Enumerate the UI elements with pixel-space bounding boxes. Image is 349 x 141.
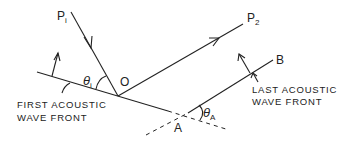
theta-i-arc xyxy=(96,76,106,89)
label-o: O xyxy=(120,75,129,89)
label-p1: Pi xyxy=(57,9,67,25)
caption-last-line2: WAVE FRONT xyxy=(252,96,322,107)
acoustic-wavefront-diagram: Pi P2 O B A θi θA FIRST ACOUSTIC WAVE FR… xyxy=(0,0,349,141)
last-front-normal xyxy=(239,54,250,73)
caption-first-line2: WAVE FRONT xyxy=(17,112,87,123)
caption-first-line1: FIRST ACOUSTIC xyxy=(17,99,107,110)
first-front-normal xyxy=(52,53,58,76)
first-caption-leader xyxy=(62,83,70,93)
reflected-ray xyxy=(118,24,243,96)
label-b: B xyxy=(276,53,284,67)
label-a: A xyxy=(174,121,182,135)
incident-ray xyxy=(71,12,118,96)
caption-last-line1: LAST ACOUSTIC xyxy=(252,84,337,95)
label-theta-a: θA xyxy=(203,105,216,122)
reflected-arrow-icon xyxy=(209,38,219,46)
label-p2: P2 xyxy=(247,11,260,27)
label-theta-i: θi xyxy=(83,73,92,90)
